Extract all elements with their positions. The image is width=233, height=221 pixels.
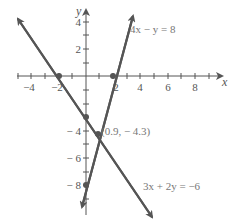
point-y-intercept-line2 (83, 114, 89, 120)
y-axis-label: y (75, 4, 82, 18)
x-tick-label: −4 (23, 81, 35, 93)
equation-label-line2: 3x + 2y = −6 (143, 180, 201, 192)
x-axis (17, 73, 222, 79)
point-x-intercept-line2 (56, 73, 62, 79)
y-tick-label: 2 (76, 43, 82, 55)
intersection-label: (0.9, − 4.3) (101, 125, 151, 138)
y-tick-label: − 4 (67, 125, 82, 137)
graph: −4 −2 2 4 6 8 x 4 2 − 4 − 6 − 8 y (0.9, … (0, 0, 233, 221)
x-tick-label: 6 (165, 81, 171, 93)
equation-label-line1: 4x − y = 8 (130, 23, 176, 35)
point-x-intercept-line1 (110, 73, 116, 79)
x-tick-label: −2 (51, 81, 63, 93)
y-tick-label: − 6 (67, 152, 82, 164)
x-tick-label: 4 (137, 81, 143, 93)
x-axis-label: x (221, 75, 228, 89)
y-tick-label: − 8 (67, 179, 82, 191)
point-y-intercept-line1 (83, 182, 89, 188)
x-tick-label: 8 (192, 81, 198, 93)
x-tick-label: 2 (113, 81, 119, 93)
